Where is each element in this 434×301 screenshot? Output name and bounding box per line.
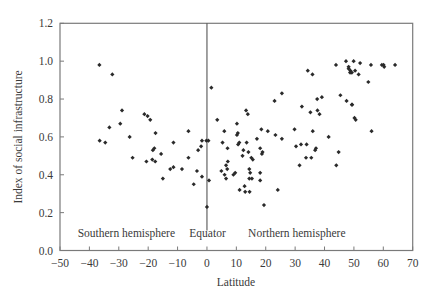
- y-tick-label: 0.2: [39, 207, 54, 219]
- data-point: [235, 122, 239, 126]
- data-point: [98, 139, 102, 143]
- data-point: [306, 69, 310, 73]
- data-point: [315, 108, 319, 112]
- data-point: [103, 140, 107, 144]
- y-tick-label: 1.0: [39, 55, 54, 67]
- annotations: Southern hemisphereEquatorNorthern hemis…: [78, 227, 346, 240]
- data-point: [258, 146, 262, 150]
- data-point: [304, 142, 308, 146]
- data-point: [244, 108, 248, 112]
- data-point: [350, 103, 354, 107]
- data-point: [242, 184, 246, 188]
- data-point: [171, 165, 175, 169]
- data-point: [369, 63, 373, 67]
- data-point: [272, 99, 276, 103]
- x-tick-label: 40: [319, 257, 331, 269]
- x-tick-label: −40: [80, 257, 98, 269]
- y-axis-title: Index of social infrastructure: [12, 70, 24, 203]
- data-point: [128, 135, 132, 139]
- y-tick-label: 0.8: [39, 93, 54, 105]
- data-point: [246, 150, 250, 154]
- x-axis: −50−40−30−20−10010203040506070: [51, 247, 419, 269]
- annotation-label: Southern hemisphere: [78, 227, 175, 240]
- data-point: [300, 105, 304, 109]
- data-point: [247, 190, 251, 194]
- data-point: [246, 112, 250, 116]
- data-point: [248, 171, 252, 175]
- data-point: [258, 178, 262, 182]
- y-tick-label: 0.0: [39, 245, 54, 257]
- data-point: [258, 171, 262, 175]
- data-point: [369, 129, 373, 133]
- data-point: [110, 72, 114, 76]
- data-point: [180, 167, 184, 171]
- data-point: [280, 91, 284, 95]
- data-point: [297, 163, 301, 167]
- data-point: [225, 146, 229, 150]
- annotation-label: Equator: [189, 227, 226, 240]
- data-point: [224, 176, 228, 180]
- data-point: [334, 63, 338, 67]
- data-point: [205, 205, 209, 209]
- data-point: [311, 129, 315, 133]
- data-point: [294, 144, 298, 148]
- data-point: [224, 163, 228, 167]
- data-point: [195, 169, 199, 173]
- data-point: [357, 72, 361, 76]
- x-tick-label: 70: [407, 257, 419, 269]
- scatter-chart: −50−40−30−20−10010203040506070 0.00.20.4…: [0, 0, 434, 301]
- data-point: [262, 203, 266, 207]
- data-point: [142, 112, 146, 116]
- data-point: [222, 129, 226, 133]
- data-point: [317, 112, 321, 116]
- data-point: [215, 118, 219, 122]
- data-point: [241, 148, 245, 152]
- annotation-label: Northern hemisphere: [248, 227, 345, 240]
- data-point: [200, 139, 204, 143]
- data-point: [168, 167, 172, 171]
- data-point: [393, 63, 397, 67]
- data-point: [276, 188, 280, 192]
- data-point: [309, 156, 313, 160]
- data-point: [130, 156, 134, 160]
- data-point: [220, 140, 224, 144]
- x-tick-label: 20: [260, 257, 272, 269]
- data-point: [159, 152, 163, 156]
- data-point: [240, 154, 244, 158]
- data-point: [148, 118, 152, 122]
- data-point: [222, 173, 226, 177]
- data-point: [344, 99, 348, 103]
- data-point: [199, 144, 203, 148]
- data-point: [153, 131, 157, 135]
- data-point: [338, 93, 342, 97]
- data-point: [219, 169, 223, 173]
- data-point: [118, 122, 122, 126]
- x-tick-label: −10: [169, 257, 187, 269]
- data-point: [186, 129, 190, 133]
- x-tick-label: 50: [348, 257, 360, 269]
- data-point: [145, 114, 149, 118]
- data-point: [120, 108, 124, 112]
- data-point: [247, 176, 251, 180]
- data-point: [353, 69, 357, 73]
- x-tick-label: 10: [231, 257, 243, 269]
- data-point: [207, 178, 211, 182]
- data-point: [97, 63, 101, 67]
- data-point: [171, 140, 175, 144]
- data-point: [225, 167, 229, 171]
- data-point: [266, 129, 270, 133]
- data-point: [245, 140, 249, 144]
- data-point: [209, 86, 213, 90]
- data-point: [200, 175, 204, 179]
- data-point: [358, 61, 362, 65]
- data-point: [186, 156, 190, 160]
- plot-frame: [60, 23, 413, 250]
- data-point: [310, 72, 314, 76]
- data-point: [192, 182, 196, 186]
- data-point: [352, 59, 356, 63]
- data-point: [344, 59, 348, 63]
- x-tick-label: −50: [51, 257, 69, 269]
- y-tick-label: 0.6: [39, 131, 54, 143]
- x-axis-title: Latitude: [217, 276, 255, 288]
- data-point: [337, 150, 341, 154]
